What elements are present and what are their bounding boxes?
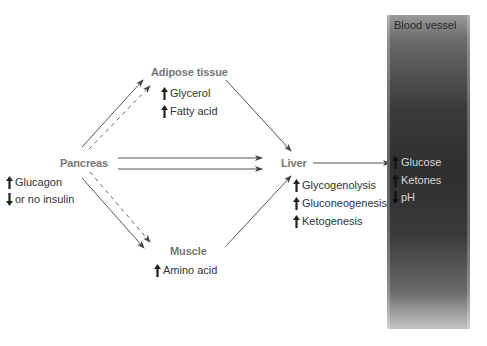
arrow-pancreas-adipose-solid [82, 80, 143, 147]
effect-label: Fatty acid [170, 105, 218, 117]
vessel-effect-ketones: Ketones [392, 173, 441, 187]
up-arrow-icon [154, 264, 161, 277]
effect-label: Glycerol [170, 87, 210, 99]
pancreas-effect-glucagon: Glucagon [6, 175, 62, 189]
muscle-label: Muscle [170, 245, 207, 257]
adipose-effect-glycerol: Glycerol [161, 86, 210, 100]
down-arrow-icon [6, 193, 13, 206]
effect-label: or no insulin [15, 193, 74, 205]
vessel-effect-ph: pH [392, 190, 415, 204]
arrow-pancreas-muscle-solid [82, 178, 144, 248]
arrow-muscle-liver [226, 176, 291, 246]
up-arrow-icon [392, 156, 399, 169]
up-arrow-icon [293, 215, 300, 228]
effect-label: Glycogenolysis [302, 179, 376, 191]
adipose-tissue-label: Adipose tissue [151, 66, 228, 78]
effect-label: Glucose [401, 156, 441, 168]
up-arrow-icon [161, 105, 168, 118]
effect-label: Gluconeogenesis [302, 197, 387, 209]
up-arrow-icon [6, 176, 13, 189]
up-arrow-icon [293, 179, 300, 192]
effect-label: Glucagon [15, 176, 62, 188]
effect-label: Ketones [401, 174, 441, 186]
pancreas-label: Pancreas [60, 157, 108, 169]
vessel-effect-glucose: Glucose [392, 155, 441, 169]
effect-label: pH [401, 191, 415, 203]
liver-effect-glycogenolysis: Glycogenolysis [293, 178, 376, 192]
blood-vessel-label: Blood vessel [394, 19, 456, 31]
blood-vessel: Blood vessel Glucose Ketones pH [387, 15, 470, 329]
arrow-pancreas-adipose-dashed [89, 86, 150, 149]
muscle-effect-amino-acid: Amino acid [154, 263, 217, 277]
arrow-pancreas-muscle-dashed [90, 172, 150, 242]
up-arrow-icon [293, 197, 300, 210]
up-arrow-icon [392, 174, 399, 187]
down-arrow-icon [392, 191, 399, 204]
liver-effect-ketogenesis: Ketogenesis [293, 214, 363, 228]
liver-label: Liver [281, 157, 307, 169]
arrow-adipose-liver [226, 80, 291, 151]
effect-label: Ketogenesis [302, 215, 363, 227]
adipose-effect-fatty-acid: Fatty acid [161, 104, 218, 118]
effect-label: Amino acid [163, 264, 217, 276]
up-arrow-icon [161, 87, 168, 100]
liver-effect-gluconeogenesis: Gluconeogenesis [293, 196, 387, 210]
pancreas-effect-insulin: or no insulin [6, 192, 74, 206]
